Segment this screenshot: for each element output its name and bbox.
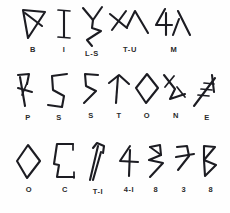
glyph-cell-n[interactable]: N [160, 70, 192, 120]
glyph-label: 3 [170, 185, 198, 194]
broken-eight-glyph [142, 140, 170, 184]
glyph-cell-b[interactable]: B [16, 4, 50, 54]
glyph-label: O [12, 185, 46, 194]
glyph-cell-s1[interactable]: S [42, 70, 76, 122]
glyph-label: C [48, 185, 82, 194]
glyph-chart-sheet: B I L-S T-U [0, 0, 230, 213]
glyph-label: 4-I [114, 185, 144, 194]
glyph-cell-o[interactable]: O [132, 70, 162, 120]
zigzag-fork-glyph [74, 4, 110, 48]
bracket-c-glyph [48, 140, 82, 184]
glyph-cell-8a[interactable]: 8 [142, 140, 170, 194]
diamond-glyph [132, 70, 162, 110]
glyph-label: T [104, 111, 134, 120]
hooked-mast-glyph [80, 140, 116, 186]
glyph-cell-3[interactable]: 3 [170, 140, 198, 194]
glyph-cell-t-u[interactable]: T-U [106, 4, 154, 54]
glyph-label: T-I [80, 187, 116, 196]
glyph-label: E [190, 113, 224, 122]
glyph-row-3: O C T-I 4-I [0, 140, 230, 206]
angular-five-glyph [76, 70, 106, 110]
glyph-label: L-S [74, 49, 110, 58]
slanted-tee-glyph [104, 70, 134, 110]
glyph-cell-e[interactable]: E [190, 70, 224, 122]
glyph-cell-t[interactable]: T [104, 70, 134, 120]
glyph-cell-p[interactable]: P [12, 70, 44, 122]
glyph-cell-c[interactable]: C [48, 140, 82, 194]
glyph-cell-o2[interactable]: O [12, 140, 46, 194]
glyph-cell-l-s[interactable]: L-S [74, 4, 110, 58]
glyph-label: 8 [196, 185, 226, 194]
double-triangle-eight-glyph [196, 140, 226, 184]
hooked-stem-with-bar-glyph [12, 70, 44, 112]
glyph-label: B [16, 45, 50, 54]
glyph-label: 8 [142, 185, 170, 194]
glyph-cell-4-i[interactable]: 4-I [114, 140, 144, 194]
glyph-label: O [132, 111, 162, 120]
glyph-row-2: P S S T O [0, 70, 230, 132]
glyph-label: S [42, 113, 76, 122]
hatched-diagonal-glyph [190, 70, 224, 112]
glyph-label: M [152, 45, 196, 54]
barred-three-glyph [170, 140, 198, 184]
down-triangle-with-diagonal-glyph [16, 4, 50, 44]
glyph-cell-m[interactable]: M [152, 4, 196, 54]
glyph-label: S [76, 111, 106, 120]
glyph-cell-t-i[interactable]: T-I [80, 140, 116, 196]
glyph-cell-8b[interactable]: 8 [196, 140, 226, 194]
cross-lambda-pair-glyph [106, 4, 154, 44]
four-lambda-pair-glyph [152, 4, 196, 44]
glyph-cell-s2[interactable]: S [76, 70, 106, 120]
diamond-glyph [12, 140, 46, 184]
crossed-zigzag-glyph [160, 70, 192, 110]
glyph-label: P [12, 113, 44, 122]
angular-s-glyph [42, 70, 76, 112]
glyph-label: N [160, 111, 192, 120]
glyph-row-1: B I L-S T-U [0, 4, 230, 66]
glyph-label: T-U [106, 45, 154, 54]
four-with-stem-glyph [114, 140, 144, 184]
